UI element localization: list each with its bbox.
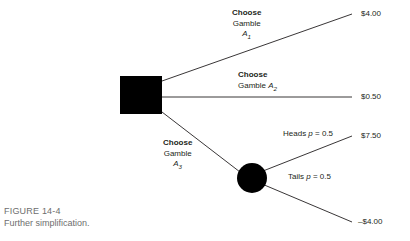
outcome-label-tails-prob: p = 0.5 <box>306 172 331 181</box>
payoff-a2: $0.50 <box>361 92 381 101</box>
branch-label-a3-line1: Gamble <box>163 149 192 160</box>
outcome-label-tails-name: Tails <box>288 172 304 181</box>
branch-label-a1-line1: Gamble <box>232 19 261 30</box>
branch-line-heads <box>263 136 352 171</box>
branch-label-a1-line2: A1 <box>232 29 261 42</box>
branch-line-tails <box>262 184 352 222</box>
branch-label-a3: Choose Gamble A3 <box>163 138 192 172</box>
branch-label-a3-line2: A3 <box>163 159 192 172</box>
branch-label-a3-header: Choose <box>163 138 192 149</box>
figure-number: FIGURE 14-4 <box>4 206 61 216</box>
outcome-label-heads-prob: p = 0.5 <box>308 129 333 138</box>
outcome-label-heads: Heads p = 0.5 <box>283 129 333 140</box>
branch-label-a2-line1: Gamble A2 <box>238 81 277 94</box>
branch-label-a2-header: Choose <box>238 70 277 81</box>
chance-circle-node <box>237 163 267 193</box>
branch-label-a1: Choose Gamble A1 <box>232 8 261 42</box>
payoff-a1: $4.00 <box>361 9 381 18</box>
outcome-label-tails: Tails p = 0.5 <box>288 172 331 183</box>
payoff-heads: $7.50 <box>361 131 381 140</box>
payoff-tails: –$4.00 <box>358 217 382 226</box>
branch-label-a1-header: Choose <box>232 8 261 19</box>
outcome-label-heads-name: Heads <box>283 129 306 138</box>
figure-caption: FIGURE 14-4 Further simplification. <box>4 205 90 229</box>
branch-label-a2: Choose Gamble A2 <box>238 70 277 94</box>
figure-title: Further simplification. <box>4 217 90 229</box>
decision-square-node <box>120 76 162 114</box>
